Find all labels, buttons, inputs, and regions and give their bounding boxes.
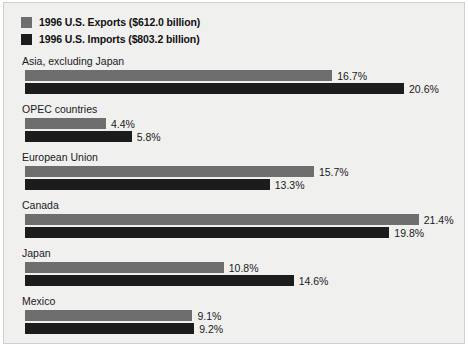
bar-exports [25,310,192,321]
bar-row: 15.7% [25,166,349,177]
category-label: Mexico [22,295,55,307]
legend-label-imports: 1996 U.S. Imports ($803.2 billion) [39,33,200,45]
bar-row: 4.4% [25,118,135,129]
bar-value-label: 9.2% [199,323,223,335]
bar-value-label: 10.8% [229,262,259,274]
legend-label-exports: 1996 U.S. Exports ($612.0 billion) [39,16,200,28]
bar-value-label: 15.7% [319,166,349,178]
bar-row: 21.4% [25,214,454,225]
bar-row: 16.7% [25,70,367,81]
chart-panel: 1996 U.S. Exports ($612.0 billion) 1996 … [3,2,465,344]
bar-group: Canada21.4%19.8% [4,199,466,247]
bar-row: 10.8% [25,262,259,273]
bar-value-label: 4.4% [111,118,135,130]
bar-value-label: 5.8% [137,131,161,143]
category-label: Asia, excluding Japan [22,55,124,67]
bar-value-label: 21.4% [424,214,454,226]
bar-exports [25,70,332,81]
bar-value-label: 19.8% [394,227,424,239]
bar-value-label: 9.1% [197,310,221,322]
bar-group: Japan10.8%14.6% [4,247,466,295]
legend-swatch-exports [21,17,32,28]
bar-group: European Union15.7%13.3% [4,151,466,199]
chart-legend: 1996 U.S. Exports ($612.0 billion) 1996 … [21,15,200,49]
bar-imports [25,227,389,238]
bar-row: 5.8% [25,131,161,142]
bar-imports [25,275,294,286]
bar-exports [25,262,224,273]
bar-value-label: 13.3% [275,179,305,191]
legend-item-exports: 1996 U.S. Exports ($612.0 billion) [21,15,200,29]
category-label: European Union [22,151,98,163]
bar-value-label: 14.6% [299,275,329,287]
bar-row: 20.6% [25,83,439,94]
bar-chart-plot: Asia, excluding Japan16.7%20.6%OPEC coun… [4,55,466,343]
category-label: Japan [22,247,51,259]
bar-exports [25,118,106,129]
bar-exports [25,214,419,225]
legend-item-imports: 1996 U.S. Imports ($803.2 billion) [21,32,200,46]
bar-row: 14.6% [25,275,328,286]
bar-value-label: 16.7% [337,70,367,82]
bar-group: Asia, excluding Japan16.7%20.6% [4,55,466,103]
bar-row: 9.1% [25,310,221,321]
bar-exports [25,166,314,177]
category-label: OPEC countries [22,103,97,115]
bar-imports [25,179,270,190]
bar-group: Mexico9.1%9.2% [4,295,466,343]
bar-row: 9.2% [25,323,223,334]
bar-group: OPEC countries4.4%5.8% [4,103,466,151]
bar-imports [25,131,132,142]
bar-imports [25,83,404,94]
bar-value-label: 20.6% [409,83,439,95]
category-label: Canada [22,199,59,211]
legend-swatch-imports [21,34,32,45]
bar-imports [25,323,194,334]
bar-row: 13.3% [25,179,305,190]
bar-row: 19.8% [25,227,424,238]
